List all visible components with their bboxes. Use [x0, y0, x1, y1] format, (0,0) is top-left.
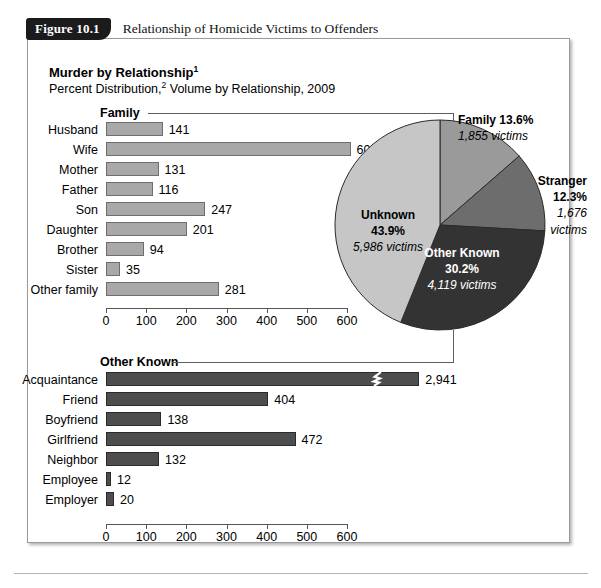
bar-category-label: Employer	[0, 493, 98, 507]
x-axis-family: 0100200300400500600	[106, 308, 347, 326]
bar	[106, 122, 163, 136]
pie-callout-stranger: Stranger 12.3% 1,676 victims	[525, 173, 587, 238]
bar-value-label: 141	[169, 123, 190, 137]
axis-tick-label: 0	[103, 314, 110, 328]
pie-label-unknown-percent: 43.9%	[336, 223, 440, 239]
bar-value-label: 138	[167, 413, 188, 427]
pie-label-other-known-percent: 30.2%	[410, 261, 514, 277]
bar	[106, 452, 159, 466]
bar-value-label: 132	[165, 453, 186, 467]
bar	[106, 222, 187, 236]
axis-tick	[227, 524, 228, 529]
axis-tick	[106, 308, 107, 313]
axis-tick-label: 600	[337, 530, 358, 544]
bar-value-label: 201	[193, 223, 214, 237]
axis-tick	[106, 524, 107, 529]
leader-line-family-horizontal	[148, 113, 454, 114]
pie-callout-family-victims: 1,855 victims	[458, 128, 533, 144]
chart-heading-footnote: 1	[193, 64, 198, 74]
axis-tick	[267, 308, 268, 313]
group-label-other-known: Other Known	[100, 355, 178, 369]
bar	[106, 412, 161, 426]
bar-category-label: Boyfriend	[0, 413, 98, 427]
axis-tick	[307, 524, 308, 529]
axis-tick	[347, 524, 348, 529]
bar	[106, 432, 296, 446]
figure-caption: Figure 10.1 Relationship of Homicide Vic…	[26, 18, 378, 40]
bar-category-label: Brother	[0, 243, 98, 257]
bar-category-label: Son	[0, 203, 98, 217]
axis-tick	[146, 524, 147, 529]
bar-value-label: 12	[117, 473, 131, 487]
chart-heading: Murder by Relationship1	[49, 65, 198, 80]
bar	[106, 392, 268, 406]
bar-value-label: 131	[165, 163, 186, 177]
bar-category-label: Girlfriend	[0, 433, 98, 447]
pie-label-other-known: Other Known 30.2% 4,119 victims	[410, 245, 514, 294]
pie-callout-family-percent: 13.6%	[499, 113, 533, 127]
axis-tick-label: 200	[176, 314, 197, 328]
bar-value-label: 404	[274, 393, 295, 407]
pie-callout-stranger-victims-word: victims	[525, 222, 587, 238]
axis-tick	[267, 524, 268, 529]
bar	[106, 262, 120, 276]
pie-label-other-known-name: Other Known	[410, 245, 514, 261]
chart-subheading: Percent Distribution,2 Volume by Relatio…	[49, 82, 335, 96]
bar-value-label: 94	[150, 243, 164, 257]
bar-value-label: 116	[159, 183, 179, 197]
bar-category-label: Father	[0, 183, 98, 197]
bar-category-label: Employee	[0, 473, 98, 487]
pie-callout-family: Family 13.6% 1,855 victims	[458, 112, 533, 144]
bar-category-label: Sister	[0, 263, 98, 277]
chart-subheading-b: Volume by Relationship, 2009	[166, 82, 335, 96]
axis-tick	[186, 308, 187, 313]
bar-value-label: 281	[225, 283, 246, 297]
pie-callout-family-name: Family	[458, 113, 496, 127]
axis-tick	[186, 524, 187, 529]
bar-category-label: Mother	[0, 163, 98, 177]
axis-tick-label: 400	[256, 530, 277, 544]
axis-tick-label: 500	[296, 530, 317, 544]
bar-value-label: 35	[126, 263, 140, 277]
bar-value-label: 2,941	[425, 373, 456, 387]
leader-line-other-known-vertical	[453, 330, 454, 363]
pie-label-other-known-victims: 4,119 victims	[410, 277, 514, 293]
pie-callout-stranger-percent: 12.3%	[525, 189, 587, 205]
bar-category-label: Daughter	[0, 223, 98, 237]
bar	[106, 162, 159, 176]
page-rule	[14, 573, 588, 574]
leader-line-other-known-horizontal	[172, 362, 454, 363]
bar-value-label: 472	[302, 433, 323, 447]
x-axis-other-known: 0100200300400500600	[106, 524, 347, 542]
axis-tick-label: 100	[136, 314, 157, 328]
axis-tick-label: 100	[136, 530, 157, 544]
figure-number-tab: Figure 10.1	[26, 18, 111, 40]
axis-tick-label: 0	[103, 530, 110, 544]
bar-category-label: Wife	[0, 143, 98, 157]
bar-category-label: Other family	[0, 283, 98, 297]
axis-tick-label: 400	[256, 314, 277, 328]
chart-subheading-a: Percent Distribution,	[49, 82, 162, 96]
group-label-family: Family	[100, 106, 140, 120]
axis-tick-label: 200	[176, 530, 197, 544]
axis-tick	[146, 308, 147, 313]
axis-tick-label: 300	[216, 314, 237, 328]
bar-category-label: Neighbor	[0, 453, 98, 467]
bar-value-label: 247	[211, 203, 232, 217]
bar-category-label: Friend	[0, 393, 98, 407]
bar	[106, 472, 111, 486]
bar	[106, 242, 144, 256]
pie-label-unknown-name: Unknown	[336, 207, 440, 223]
bar	[106, 202, 205, 216]
axis-tick-label: 300	[216, 530, 237, 544]
bar-value-label: 20	[120, 493, 134, 507]
axis-tick-label: 500	[296, 314, 317, 328]
axis-tick	[307, 308, 308, 313]
pie-callout-stranger-name: Stranger	[525, 173, 587, 189]
bar	[106, 182, 153, 196]
figure-title: Relationship of Homicide Victims to Offe…	[111, 18, 379, 40]
bar	[106, 282, 219, 296]
axis-tick	[227, 308, 228, 313]
bar-category-label: Husband	[0, 123, 98, 137]
pie-callout-stranger-victims: 1,676	[525, 205, 587, 221]
